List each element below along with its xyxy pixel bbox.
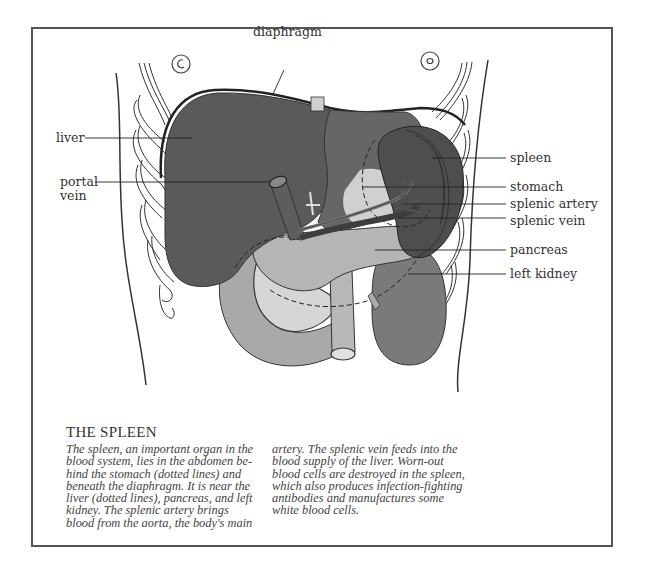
label-stomach: stomach — [510, 180, 563, 194]
caption-column-1: The spleen, an important organ in the bl… — [66, 443, 276, 529]
label-pancreas: pancreas — [510, 243, 568, 257]
leader-diaphragm — [273, 70, 284, 94]
label-portal-vein-line2: vein — [60, 189, 87, 203]
caption-line: kidney. The splenic artery brings — [66, 504, 276, 516]
right-nipple-icon — [421, 52, 439, 70]
label-portal-vein-line1: portal — [60, 175, 98, 189]
label-splenic-vein: splenic vein — [510, 214, 585, 228]
caption-line: blood from the aorta, the body's main — [66, 517, 276, 529]
caption-line: white blood cells. — [272, 504, 482, 516]
label-left-kidney: left kidney — [510, 267, 577, 281]
vena-cava-tube — [330, 270, 355, 352]
caption-line: blood system, lies in the abdomen be- — [66, 455, 276, 467]
label-spleen: spleen — [510, 151, 551, 165]
caption-column-2: artery. The splenic vein feeds into the … — [272, 443, 482, 517]
vena-cava-opening — [331, 348, 355, 360]
esophagus-stub — [311, 97, 324, 111]
caption-title: THE SPLEEN — [66, 424, 157, 441]
body-outline-left — [116, 73, 146, 385]
label-splenic-artery: splenic artery — [510, 197, 598, 211]
label-diaphragm: diaphragm — [253, 25, 322, 39]
body-outline-right — [458, 60, 488, 392]
caption-line: blood supply of the liver. Worn-out — [272, 455, 482, 467]
left-nipple-icon — [172, 55, 190, 73]
label-liver: liver — [56, 131, 84, 145]
